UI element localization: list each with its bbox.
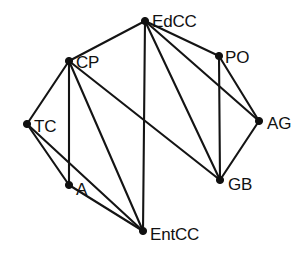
graph-node[interactable] — [215, 52, 222, 59]
graph-node-label: EdCC — [152, 12, 197, 31]
graph-edge — [27, 124, 143, 231]
graph-figure: EdCCCPPOTCAGAGBEntCC — [0, 0, 308, 261]
graph-node-label: TC — [34, 117, 56, 136]
graph-node-label: PO — [225, 48, 249, 67]
graph-node-label: A — [76, 180, 88, 199]
graph-edge — [27, 61, 69, 124]
graph-edge — [69, 61, 143, 231]
graph-node-label: GB — [228, 175, 252, 194]
graph-node[interactable] — [65, 181, 72, 188]
graph-edge — [219, 56, 220, 180]
graph-node[interactable] — [255, 117, 262, 124]
graph-edge — [143, 21, 145, 231]
graph-canvas: EdCCCPPOTCAGAGBEntCC — [0, 0, 308, 261]
graph-edge — [145, 21, 220, 180]
graph-node[interactable] — [65, 57, 72, 64]
graph-edge — [220, 121, 259, 180]
graph-node[interactable] — [139, 227, 146, 234]
graph-node[interactable] — [141, 17, 148, 24]
graph-node-label: AG — [267, 114, 291, 133]
graph-node[interactable] — [23, 120, 30, 127]
graph-node-label: EntCC — [150, 225, 199, 244]
graph-edge — [145, 21, 259, 121]
label-layer: EdCCCPPOTCAGAGBEntCC — [34, 12, 291, 244]
graph-node[interactable] — [216, 176, 223, 183]
graph-node-label: CP — [76, 53, 99, 72]
